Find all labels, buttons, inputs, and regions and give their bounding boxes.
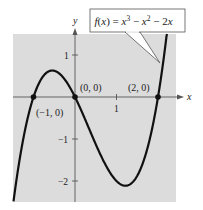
plot-area <box>13 34 176 202</box>
y-axis-arrow-icon <box>73 28 78 35</box>
point-0-0 <box>72 94 78 100</box>
y-tick-label-1: 1 <box>64 51 69 61</box>
y-tick-label-minus2: −2 <box>58 177 68 187</box>
callout-formula: f(x) = x3 − x2 − 2x <box>95 14 173 28</box>
point-label-0-0: (0, 0) <box>80 82 102 94</box>
x-axis-arrow-icon <box>177 95 184 100</box>
point-label-minus1-0: (−1, 0) <box>36 107 63 119</box>
x-axis-label: x <box>186 91 192 102</box>
y-tick-label-minus1: −1 <box>58 135 68 145</box>
point-2-0 <box>155 94 161 100</box>
point-label-2-0: (2, 0) <box>128 82 150 94</box>
point-minus1-0 <box>31 94 37 100</box>
function-graph: x 1 y 1 −1 −2 (−1, 0) (0, 0) (2, 0) f(x)… <box>0 0 203 210</box>
x-tick-label-1: 1 <box>114 104 119 114</box>
y-axis-label: y <box>72 15 78 26</box>
